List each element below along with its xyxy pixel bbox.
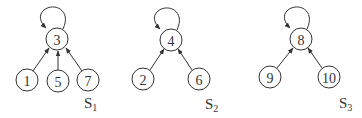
svg-text:6: 6 xyxy=(196,73,203,88)
svg-text:2: 2 xyxy=(140,73,147,88)
component-s3: 8 9 10 S3 xyxy=(259,7,352,113)
self-loop-4 xyxy=(154,8,179,30)
graph-canvas: 3 1 5 7 S1 4 2 6 S2 xyxy=(0,0,362,118)
node-1: 1 xyxy=(16,69,38,91)
component-label-s3: S3 xyxy=(339,95,352,113)
edge-10-to-8 xyxy=(308,48,322,68)
component-label-s1: S1 xyxy=(84,95,97,113)
node-8: 8 xyxy=(290,28,312,50)
svg-text:4: 4 xyxy=(168,34,175,49)
node-6: 6 xyxy=(188,68,210,90)
svg-text:7: 7 xyxy=(85,74,92,89)
component-label-s2: S2 xyxy=(205,96,218,114)
edge-7-to-3 xyxy=(66,48,82,71)
self-loop-3 xyxy=(40,7,65,29)
svg-text:1: 1 xyxy=(24,74,31,89)
component-s2: 4 2 6 S2 xyxy=(132,8,218,114)
node-7: 7 xyxy=(77,69,99,91)
edge-6-to-4 xyxy=(178,49,192,70)
node-10: 10 xyxy=(318,66,340,88)
svg-text:8: 8 xyxy=(298,33,305,48)
component-s1: 3 1 5 7 S1 xyxy=(16,7,99,113)
node-2: 2 xyxy=(132,68,154,90)
edge-2-to-4 xyxy=(150,49,164,70)
svg-text:5: 5 xyxy=(55,75,62,90)
svg-text:3: 3 xyxy=(54,33,61,48)
edge-9-to-8 xyxy=(277,48,293,68)
node-3: 3 xyxy=(46,28,68,50)
svg-text:10: 10 xyxy=(322,71,336,86)
self-loop-8 xyxy=(284,7,309,29)
node-9: 9 xyxy=(259,66,281,88)
node-4: 4 xyxy=(160,29,182,51)
edge-1-to-3 xyxy=(33,48,49,71)
node-5: 5 xyxy=(47,70,69,92)
svg-text:9: 9 xyxy=(267,71,274,86)
